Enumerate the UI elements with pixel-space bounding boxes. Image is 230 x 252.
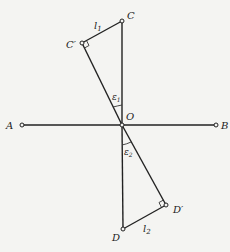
label-l2: l2 [143,223,151,236]
point-B [214,123,218,127]
segment-OD [122,125,123,229]
label-C: C [127,10,135,21]
angle-arc-eps2 [122,142,131,145]
point-C [120,19,124,23]
label-C-prime: C′ [66,39,77,50]
point-C-prime [80,41,84,45]
point-D [121,227,125,231]
label-O: O [126,111,134,122]
point-O [120,123,124,127]
geometry-diagram: A B O C C′ D D′ l1 l2 ε1 ε2 [0,0,230,252]
segment-OC-prime [82,43,122,125]
label-A: A [5,120,13,131]
label-eps2: ε2 [124,147,133,158]
segment-OD-prime [122,125,166,205]
label-eps1: ε1 [112,92,121,103]
label-l1: l1 [94,20,102,33]
angle-arc-eps1 [113,105,122,107]
label-B: B [220,120,228,131]
point-A [20,123,24,127]
segment-l1 [82,21,122,43]
diagram-canvas: A B O C C′ D D′ l1 l2 ε1 ε2 [0,0,230,252]
point-D-prime [164,203,168,207]
label-D: D [111,232,120,243]
label-D-prime: D′ [172,204,184,215]
